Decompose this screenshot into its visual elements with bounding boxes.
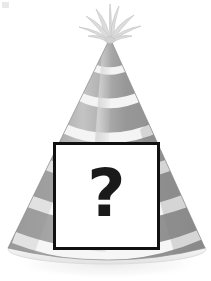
illustration-canvas: ? bbox=[0, 0, 211, 281]
question-placeholder-box[interactable]: ? bbox=[53, 142, 160, 250]
question-mark-label: ? bbox=[87, 161, 125, 227]
tassel-pom-pom bbox=[79, 4, 141, 43]
